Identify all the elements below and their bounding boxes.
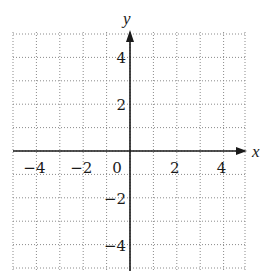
y-tick-label: 4 xyxy=(116,49,126,67)
y-tick-label: 2 xyxy=(116,96,126,114)
tick-labels: −4−202442−2−4 xyxy=(23,49,226,254)
x-axis-label: x xyxy=(251,142,260,161)
x-tick-label: −2 xyxy=(70,159,92,177)
coordinate-plane: x y −4−202442−2−4 xyxy=(0,0,270,275)
axes xyxy=(13,30,247,271)
y-tick-label: −2 xyxy=(104,190,126,208)
y-axis-arrow-icon xyxy=(126,30,134,42)
x-tick-label: 0 xyxy=(112,159,122,177)
x-tick-label: −4 xyxy=(23,159,45,177)
y-axis-label: y xyxy=(121,9,131,28)
x-tick-label: 2 xyxy=(170,159,180,177)
x-tick-label: 4 xyxy=(217,159,227,177)
y-tick-label: −4 xyxy=(104,237,126,255)
x-axis-arrow-icon xyxy=(236,147,247,155)
